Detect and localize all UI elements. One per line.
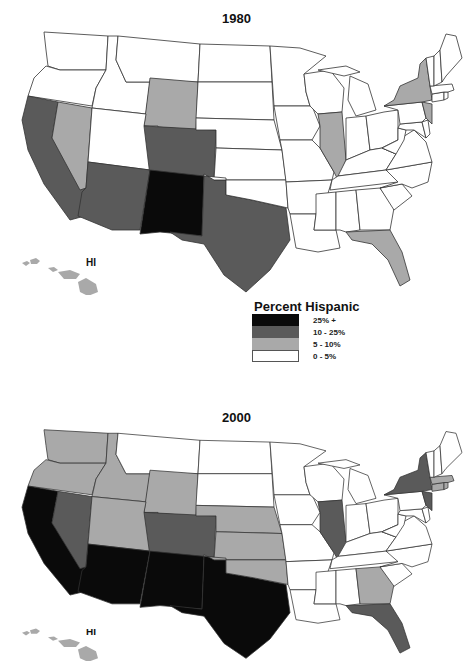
state-ms bbox=[314, 570, 336, 603]
legend-swatch bbox=[252, 338, 299, 350]
state-nm bbox=[140, 551, 204, 609]
map-title-1980: 1980 bbox=[222, 11, 251, 26]
state-nd bbox=[198, 44, 272, 82]
state-hi bbox=[58, 639, 80, 647]
legend-label: 5 - 10% bbox=[313, 340, 341, 349]
state-hi bbox=[22, 261, 30, 266]
state-ia bbox=[274, 106, 320, 140]
state-wy bbox=[144, 78, 198, 130]
state-nd bbox=[198, 440, 272, 473]
state-az bbox=[78, 162, 150, 230]
state-sd bbox=[196, 474, 274, 507]
state-hi bbox=[30, 258, 40, 264]
state-mt bbox=[116, 36, 200, 82]
legend-item-0-5: 0 - 5% bbox=[252, 350, 372, 362]
state-hi bbox=[78, 278, 98, 295]
choropleth-map-2000: HI bbox=[0, 428, 466, 661]
state-sd bbox=[196, 82, 274, 120]
state-hi bbox=[48, 267, 58, 272]
legend-label: 0 - 5% bbox=[313, 352, 336, 361]
state-me bbox=[440, 432, 462, 474]
map-title-2000: 2000 bbox=[222, 410, 251, 425]
state-ks bbox=[214, 532, 286, 560]
state-ks bbox=[214, 148, 286, 180]
state-wy bbox=[144, 470, 198, 516]
state-fl bbox=[346, 604, 410, 653]
legend-title: Percent Hispanic bbox=[254, 299, 372, 314]
state-ms bbox=[314, 192, 336, 230]
state-hi bbox=[30, 628, 40, 633]
state-wa bbox=[44, 32, 108, 70]
legend: Percent Hispanic 25% + 10 - 25% 5 - 10% … bbox=[252, 299, 372, 362]
state-ny bbox=[384, 453, 432, 495]
state-hi bbox=[48, 636, 58, 640]
choropleth-map-1980: HI bbox=[0, 30, 466, 295]
state-ri bbox=[444, 92, 448, 100]
legend-label: 10 - 25% bbox=[313, 328, 345, 337]
state-nm bbox=[140, 170, 204, 236]
state-hi bbox=[78, 646, 98, 661]
state-ia bbox=[274, 495, 320, 525]
state-ri bbox=[444, 483, 448, 490]
state-mt bbox=[116, 433, 200, 473]
legend-item-10-25: 10 - 25% bbox=[252, 326, 372, 338]
state-wa bbox=[44, 430, 108, 463]
legend-item-25-plus: 25% + bbox=[252, 314, 372, 326]
state-hi bbox=[22, 631, 30, 635]
state-hi bbox=[58, 270, 80, 279]
legend-item-5-10: 5 - 10% bbox=[252, 338, 372, 350]
legend-swatch bbox=[252, 314, 299, 326]
state-ny bbox=[384, 58, 432, 106]
state-az bbox=[78, 544, 150, 604]
state-me bbox=[440, 34, 462, 82]
hawaii-label: HI bbox=[86, 627, 96, 637]
legend-swatch bbox=[252, 326, 299, 338]
state-fl bbox=[346, 230, 410, 286]
hawaii-label: HI bbox=[86, 257, 96, 268]
legend-swatch bbox=[252, 350, 299, 362]
legend-label: 25% + bbox=[313, 316, 336, 325]
